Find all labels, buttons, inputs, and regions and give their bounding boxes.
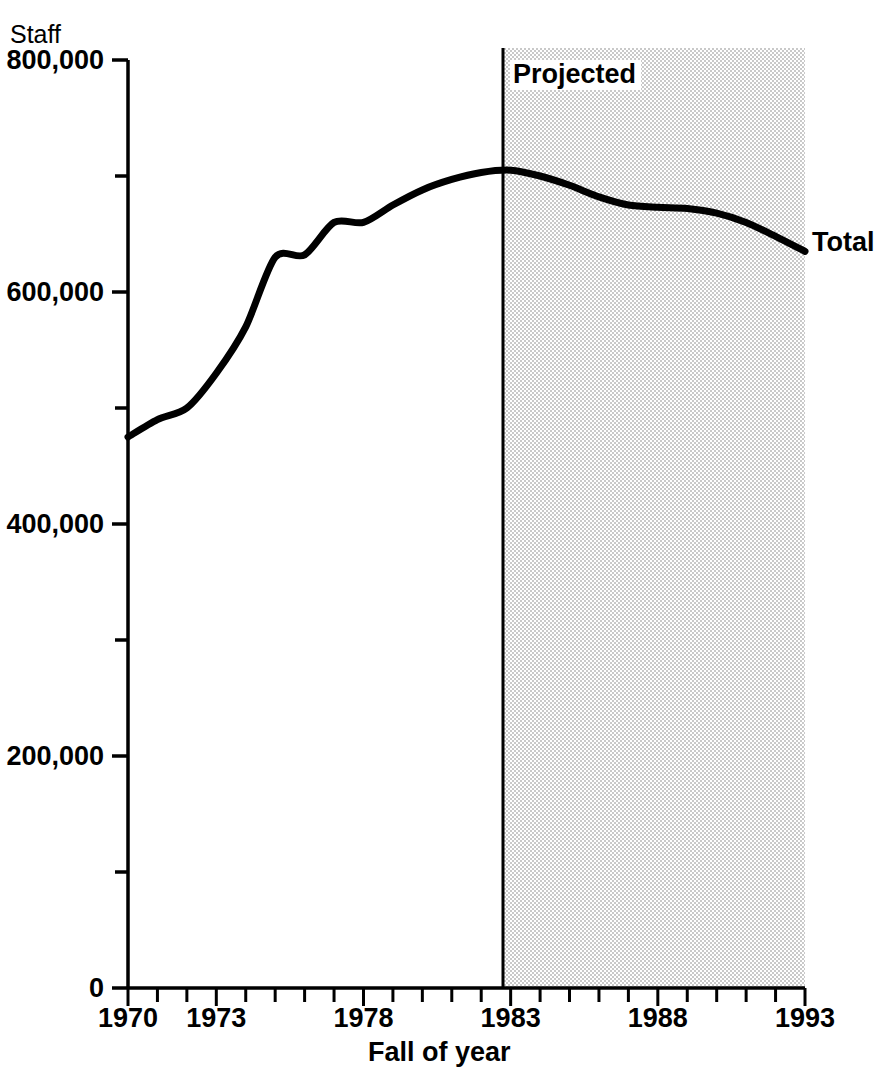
y-tick-label: 200,000 — [0, 743, 104, 770]
x-axis-title: Fall of year — [368, 1039, 511, 1066]
x-tick-label: 1988 — [598, 1005, 718, 1032]
x-tick-label: 1993 — [745, 1005, 865, 1032]
x-tick-label: 1973 — [156, 1005, 276, 1032]
y-axis-ticks — [112, 60, 128, 988]
y-tick-label: 600,000 — [0, 279, 104, 306]
x-tick-label: 1978 — [303, 1005, 423, 1032]
y-tick-label: 800,000 — [0, 47, 104, 74]
projected-region-shading — [503, 48, 805, 988]
series-end-label-total: Total — [812, 229, 875, 256]
x-tick-label: 1983 — [451, 1005, 571, 1032]
y-axis-unit-label: Staff — [10, 22, 61, 47]
y-tick-label: 0 — [0, 975, 104, 1002]
y-tick-label: 400,000 — [0, 511, 104, 538]
projected-annotation-label: Projected — [510, 60, 641, 90]
